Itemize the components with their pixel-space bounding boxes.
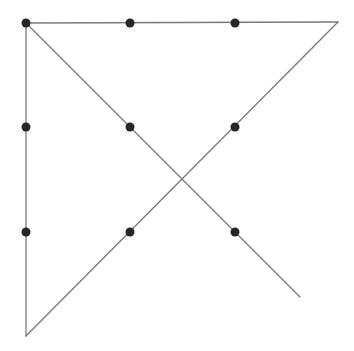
- grid-dot: [22, 228, 31, 237]
- grid-dot: [22, 123, 31, 132]
- grid-dot: [126, 123, 135, 132]
- top-horizontal-line: [26, 22, 338, 23]
- falling-diagonal-line: [26, 23, 300, 297]
- grid-dot: [126, 19, 135, 28]
- grid-dot: [22, 19, 31, 28]
- grid-dot: [231, 123, 240, 132]
- grid-dot: [126, 228, 135, 237]
- grid-dot: [231, 228, 240, 237]
- lines-layer: [26, 22, 338, 336]
- grid-dot: [231, 19, 240, 28]
- nine-dots-diagram: [0, 0, 354, 351]
